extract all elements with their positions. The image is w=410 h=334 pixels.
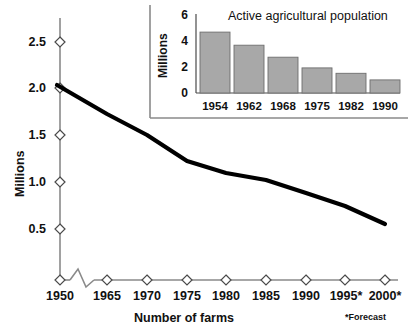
farms-figure: 2.5 2.0 1.5 1.0 0.5 Millions 1950 1965 1… bbox=[0, 0, 410, 334]
bar-1962 bbox=[234, 45, 264, 93]
inset-y-tick-label: 0 bbox=[160, 87, 188, 99]
inset-y-tick-label: 6 bbox=[160, 9, 188, 21]
bar-1954 bbox=[200, 32, 230, 93]
inset-y-axis-title: Millions bbox=[157, 33, 169, 78]
bar-1975 bbox=[302, 68, 332, 93]
inset-x-tick-label: 1990 bbox=[359, 101, 410, 113]
inset-title: Active agricultural population bbox=[228, 10, 388, 23]
inset-bars bbox=[200, 32, 400, 93]
bar-1990 bbox=[370, 80, 400, 93]
bar-1982 bbox=[336, 73, 366, 93]
inset-bar-chart bbox=[0, 0, 410, 334]
bar-1968 bbox=[268, 57, 298, 93]
